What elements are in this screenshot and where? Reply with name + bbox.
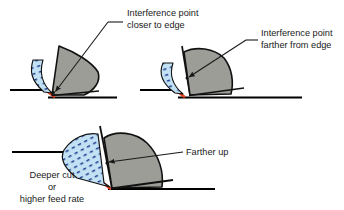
interference-point-1 xyxy=(52,91,55,94)
caption-deeper-cut-line2: or xyxy=(48,182,56,192)
annotation-farther-up: Farther up xyxy=(186,147,228,157)
annotation-interference-closer-line1: Interference point xyxy=(127,8,199,18)
caption-deeper-cut-line1: Deeper cut xyxy=(30,170,75,180)
interference-point-2 xyxy=(186,77,189,80)
annotation-interference-farther-line1: Interference point xyxy=(261,28,333,38)
annotation-interference-closer-line2: closer to edge xyxy=(127,20,185,30)
interference-point-diagram: Interference point closer to edge Interf… xyxy=(0,0,344,210)
annotation-interference-farther-line2: farther from edge xyxy=(261,40,331,50)
interference-point-3 xyxy=(105,161,108,164)
caption-deeper-cut-line3: higher feed rate xyxy=(20,194,84,204)
